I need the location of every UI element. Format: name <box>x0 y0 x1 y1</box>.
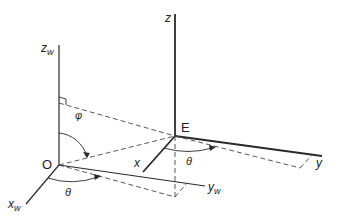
theta-world-arc <box>48 177 98 182</box>
x-label: x <box>133 156 141 170</box>
phi-arrowhead <box>83 152 90 158</box>
phi-arc <box>59 133 87 157</box>
y-label: y <box>315 156 323 170</box>
theta-world-arrowhead <box>94 174 101 180</box>
theta-local-label: θ <box>186 155 192 167</box>
theta-local-arc <box>164 148 212 152</box>
origin-e-label: E <box>181 120 190 135</box>
x-axis <box>143 136 175 172</box>
y-axis <box>175 136 322 156</box>
yw-label: yw <box>207 180 221 196</box>
origin-o-label: O <box>42 157 52 172</box>
zw-label: zw <box>40 41 54 57</box>
xw-label: xw <box>7 197 21 213</box>
coordinate-diagram: zw xw yw O z y x E φ θ θ <box>0 0 338 219</box>
yw-axis <box>59 165 205 186</box>
z-label: z <box>164 11 171 25</box>
theta-world-label: θ <box>65 186 71 198</box>
phi-label: φ <box>75 109 82 121</box>
